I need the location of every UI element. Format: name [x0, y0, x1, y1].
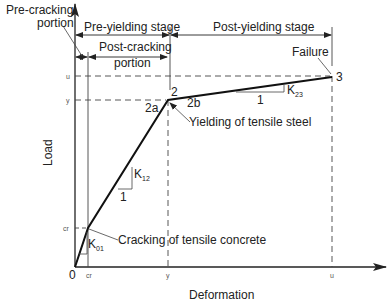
- k23-run-label: 1: [257, 93, 264, 107]
- y-axis-title: Load: [41, 139, 55, 166]
- post-cracking-label-line1: Post-cracking: [99, 40, 172, 54]
- k01-label: K01: [88, 237, 104, 252]
- point-2-label: 2: [171, 85, 178, 99]
- pre-yielding-label: Pre-yielding stage: [84, 20, 180, 34]
- k12-label: K12: [134, 167, 150, 182]
- failure-leader: [318, 58, 331, 74]
- y-tick-y: y: [66, 97, 70, 105]
- y-tick-u: u: [66, 73, 70, 80]
- post-yielding-label: Post-yielding stage: [213, 20, 315, 34]
- pre-cracking-leader: [63, 26, 82, 56]
- point-2a-label: 2a: [145, 101, 159, 115]
- point-2b-label: 2b: [187, 96, 201, 110]
- y-tick-cr: cr: [63, 225, 70, 232]
- x-tick-y: y: [166, 272, 170, 280]
- post-cracking-label-line2: portion: [114, 56, 151, 70]
- origin-label: 0: [69, 268, 76, 282]
- load-deformation-diagram: Pre-cracking portion Pre-yielding stage …: [0, 0, 387, 306]
- x-tick-cr: cr: [86, 272, 93, 279]
- pre-cracking-label-line2: portion: [37, 16, 74, 30]
- failure-annotation: Failure: [292, 45, 329, 59]
- x-tick-u: u: [330, 272, 334, 279]
- cracking-annotation: Cracking of tensile concrete: [118, 233, 266, 247]
- k12-run-label: 1: [120, 190, 127, 204]
- pre-cracking-label-line1: Pre-cracking: [6, 3, 73, 17]
- point-3-label: 3: [336, 70, 343, 84]
- x-axis-title: Deformation: [189, 288, 254, 302]
- k23-label: K23: [287, 83, 303, 98]
- yielding-annotation: Yielding of tensile steel: [189, 115, 311, 129]
